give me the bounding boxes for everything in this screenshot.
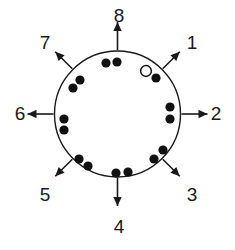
filled-marker-dot	[59, 114, 68, 123]
filled-marker-dot	[112, 57, 121, 66]
direction-label-3: 3	[187, 184, 198, 205]
filled-marker-dot	[165, 102, 174, 111]
direction-label-1: 1	[187, 32, 198, 53]
direction-label-5: 5	[40, 184, 51, 205]
arrow-head-2	[199, 110, 208, 118]
direction-label-7: 7	[40, 32, 51, 53]
circular-direction-diagram: 12345678	[0, 0, 235, 250]
filled-marker-dot	[75, 75, 84, 84]
filled-marker-dot	[151, 73, 160, 82]
arrow-head-6	[28, 110, 37, 118]
filled-marker-dot	[83, 161, 92, 170]
data-markers-group	[59, 57, 174, 177]
filled-marker-dot	[149, 154, 158, 163]
arrow-head-4	[113, 197, 121, 206]
direction-label-6: 6	[15, 103, 26, 124]
diagram-canvas: 12345678	[0, 0, 235, 250]
filled-marker-dot	[165, 114, 174, 123]
filled-marker-dot	[101, 58, 110, 67]
filled-marker-dot	[68, 83, 77, 92]
filled-marker-dot	[158, 145, 167, 154]
direction-label-2: 2	[211, 103, 222, 124]
open-marker-dot	[141, 66, 152, 77]
filled-marker-dot	[59, 125, 68, 134]
filled-marker-dot	[74, 154, 83, 163]
filled-marker-dot	[111, 168, 120, 177]
filled-marker-dot	[123, 167, 132, 176]
direction-label-8: 8	[114, 5, 125, 26]
direction-label-4: 4	[114, 216, 125, 237]
circle-outline	[55, 51, 181, 177]
